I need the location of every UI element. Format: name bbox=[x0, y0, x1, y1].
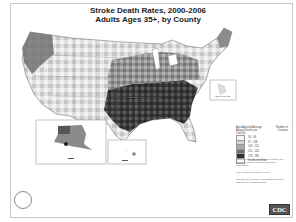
nyc-label: New York City bbox=[210, 95, 236, 220]
title-line-1: Stroke Death Rates, 2000-2006 bbox=[0, 6, 296, 15]
icd-note: ICD-10 codes for stroke: I60-I69 bbox=[236, 171, 288, 174]
legend-range: 97 - 108 bbox=[248, 141, 288, 144]
cdc-logo: CDC bbox=[269, 204, 290, 215]
maine-region bbox=[217, 28, 232, 48]
legend-range: 109 - 114 bbox=[248, 145, 288, 148]
legend-range: 115 - 126 bbox=[248, 150, 288, 153]
hawaii-inset bbox=[108, 140, 146, 164]
legend-range: 59 - 96 bbox=[248, 136, 288, 139]
title-line-2: Adults Ages 35+, by County bbox=[0, 15, 296, 24]
hhs-logo bbox=[14, 191, 32, 209]
legend-header-counties: Number of Counties bbox=[272, 126, 288, 136]
alaska-inset bbox=[36, 120, 106, 164]
us-choropleth-map bbox=[12, 24, 242, 174]
map-title: Stroke Death Rates, 2000-2006 Adults Age… bbox=[0, 6, 296, 24]
data-source-note: Data Source: National Vital Statistics S… bbox=[236, 178, 288, 184]
smoothing-note: Rates are spatially smoothed to enhance … bbox=[236, 158, 288, 167]
